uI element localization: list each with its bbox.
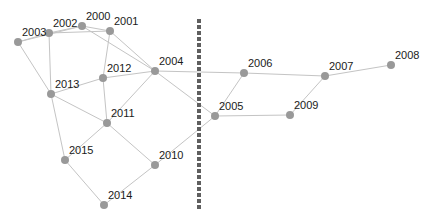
node-dot <box>151 67 159 75</box>
edge-2004-2006 <box>155 71 244 73</box>
node-dot <box>240 69 248 77</box>
edge-2013-2011 <box>51 94 107 123</box>
node-dot <box>321 72 329 80</box>
node-label: 2004 <box>159 55 183 67</box>
node-dot <box>100 201 108 209</box>
node-2000: 2000 <box>78 10 110 30</box>
node-2002: 2002 <box>45 17 77 37</box>
node-label: 2012 <box>107 62 131 74</box>
edge-2012-2011 <box>103 78 107 123</box>
node-label: 2000 <box>86 10 110 22</box>
node-2015: 2015 <box>61 144 93 164</box>
node-2010: 2010 <box>151 149 183 169</box>
edge-2005-2009 <box>215 115 290 116</box>
edge-2013-2015 <box>51 94 65 160</box>
node-dot <box>61 156 69 164</box>
node-label: 2003 <box>22 26 46 38</box>
node-label: 2014 <box>108 189 132 201</box>
node-label: 2009 <box>294 99 318 111</box>
node-label: 2008 <box>395 49 419 61</box>
node-label: 2010 <box>159 149 183 161</box>
network-graph: 2000200120022003200420052006200720082009… <box>0 0 430 224</box>
node-2011: 2011 <box>103 107 135 127</box>
edges-layer <box>18 26 391 205</box>
node-dot <box>47 90 55 98</box>
node-dot <box>211 112 219 120</box>
node-dot <box>286 111 294 119</box>
node-label: 2013 <box>55 78 79 90</box>
node-label: 2011 <box>111 107 135 119</box>
node-dot <box>106 27 114 35</box>
node-dot <box>387 61 395 69</box>
edge-2004-2005 <box>155 71 215 116</box>
node-2013: 2013 <box>47 78 79 98</box>
node-dot <box>14 38 22 46</box>
edge-2002-2013 <box>49 33 51 94</box>
edge-2006-2007 <box>244 73 325 76</box>
node-dot <box>78 22 86 30</box>
nodes-layer: 2000200120022003200420052006200720082009… <box>14 10 419 209</box>
node-label: 2006 <box>248 57 272 69</box>
node-label: 2015 <box>69 144 93 156</box>
node-dot <box>151 161 159 169</box>
node-2014: 2014 <box>100 189 132 209</box>
node-2005: 2005 <box>211 100 243 120</box>
edge-2011-2010 <box>107 123 155 165</box>
node-2001: 2001 <box>106 15 138 35</box>
node-dot <box>99 74 107 82</box>
node-label: 2005 <box>219 100 243 112</box>
node-dot <box>103 119 111 127</box>
node-2008: 2008 <box>387 49 419 69</box>
node-2007: 2007 <box>321 60 353 80</box>
node-label: 2001 <box>114 15 138 27</box>
node-label: 2002 <box>53 17 77 29</box>
node-2009: 2009 <box>286 99 318 119</box>
node-2003: 2003 <box>14 26 46 46</box>
edge-2003-2013 <box>18 42 51 94</box>
node-label: 2007 <box>329 60 353 72</box>
edge-2015-2014 <box>65 160 104 205</box>
